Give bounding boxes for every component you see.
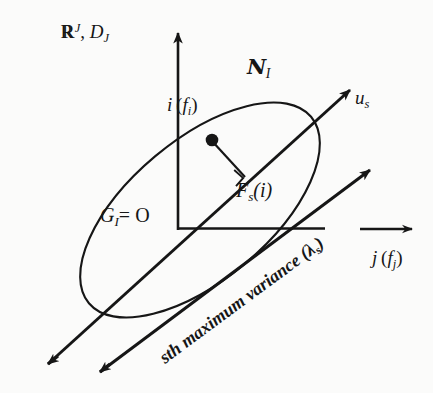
- j-paren-close: ): [396, 247, 402, 268]
- space-label: RJ, DJ: [62, 22, 109, 44]
- origin-base: G: [100, 204, 114, 226]
- manifold-label: NI: [247, 56, 270, 81]
- us-base: u: [355, 87, 365, 108]
- blackboard-r-glyph: R: [62, 22, 75, 41]
- fsi-base: F: [236, 179, 248, 201]
- script-n-glyph: N: [247, 54, 266, 79]
- axis-us-label: us: [355, 88, 369, 110]
- us-subscript: s: [365, 97, 370, 111]
- cloud-symbol: D: [90, 21, 104, 42]
- manifold-subscript: I: [266, 66, 271, 81]
- axis-j-label: j (fj): [372, 248, 403, 270]
- i-paren-close: ): [191, 94, 197, 115]
- fsi-arg: (i): [253, 179, 272, 201]
- axis-i-label: i (fi): [167, 95, 198, 117]
- depth-axis: [100, 170, 370, 372]
- space-separator: ,: [80, 21, 90, 42]
- projection-label: Fs(i): [236, 180, 272, 203]
- diagram-canvas: [0, 0, 433, 393]
- i-base: i: [167, 94, 172, 115]
- origin-label: GI= O: [100, 205, 150, 228]
- origin-equals: = O: [119, 204, 150, 226]
- diagram-figure: RJ, DJ NI us i (fi) Fs(i) GI= O j (fj) s…: [0, 0, 433, 393]
- j-base: j: [372, 247, 377, 268]
- cloud-ellipse: [44, 63, 356, 357]
- cloud-subscript: J: [103, 31, 109, 45]
